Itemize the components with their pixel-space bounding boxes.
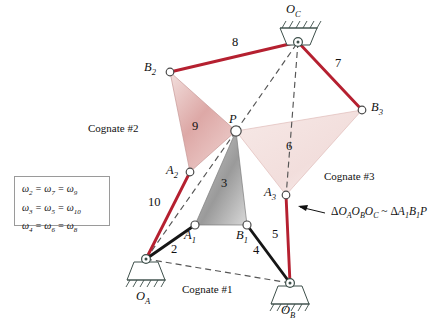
coupler-triangle-6	[236, 110, 362, 195]
label-P: P	[229, 113, 237, 126]
ground-support-OA	[126, 255, 166, 287]
ground-support-OC	[280, 21, 321, 46]
joint-A1	[191, 221, 199, 229]
label-B3: B3	[371, 101, 383, 116]
joint-A2	[186, 168, 194, 176]
joint-A3	[282, 191, 290, 199]
link-5-line	[286, 195, 290, 283]
label-B2: B2	[144, 61, 156, 76]
similarity-annotation: ΔOAOBOC ~ ΔA1B1P	[331, 206, 427, 220]
label-A3: A3	[264, 186, 276, 201]
label-A2: A2	[166, 164, 178, 179]
label-A1: A1	[184, 229, 196, 244]
dashed-OA-OB	[146, 259, 290, 283]
label-B1: B1	[236, 229, 248, 244]
linkage-drawing	[0, 0, 437, 321]
link-number-7: 7	[335, 57, 341, 70]
label-OB: OB	[281, 304, 295, 319]
angular-velocity-legend-box: ω2 = ω7 = ω9 ω3 = ω5 = ω10 ω4 = ω6 = ω8	[14, 176, 110, 226]
cognate-label-1: Cognate #1	[182, 284, 232, 295]
label-OC: OC	[286, 3, 301, 18]
link-7-line	[298, 42, 362, 110]
link-number-2: 2	[171, 243, 177, 256]
cognate-label-2: Cognate #2	[88, 123, 138, 134]
omega-line-2: ω3 = ω5 = ω10	[22, 201, 109, 220]
similarity-arrow	[298, 205, 325, 213]
link-number-10: 10	[148, 196, 161, 209]
joint-B2	[166, 68, 174, 76]
link-number-8: 8	[232, 36, 238, 49]
link-number-5: 5	[272, 228, 278, 241]
cognate-label-3: Cognate #3	[324, 171, 374, 182]
link-number-9: 9	[192, 120, 198, 133]
link-number-6: 6	[286, 140, 292, 153]
link-10-line	[146, 172, 190, 259]
joint-P	[231, 126, 241, 136]
cognate-linkage-figure: OA OB OC A1 B1 A2 B2 A3 B3 P 2 3 4 5 6 7…	[0, 0, 437, 321]
link-number-3: 3	[221, 177, 227, 190]
label-OA: OA	[136, 290, 150, 305]
omega-line-1: ω2 = ω7 = ω9	[22, 182, 109, 201]
omega-line-3: ω4 = ω6 = ω8	[22, 219, 109, 238]
joint-B3	[358, 106, 366, 114]
link-number-4: 4	[253, 244, 259, 257]
joint-B1	[243, 221, 251, 229]
